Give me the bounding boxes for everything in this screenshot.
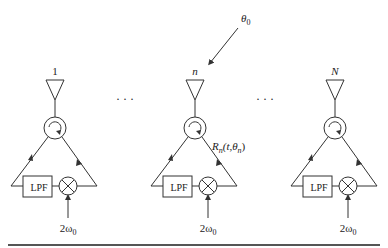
element-index-label: n [192, 65, 198, 77]
array-element-1: 1 LPF 2ω0 [11, 65, 97, 237]
array-element-n: n LPF 2ω0 Rn(t,θn) [151, 65, 246, 237]
array-element-N: N LPF 2ω0 [291, 65, 377, 237]
lo-frequency-label: 2ω0 [200, 222, 217, 237]
lpf-label: LPF [30, 182, 48, 193]
element-index-label: N [330, 65, 339, 77]
lpf-label: LPF [310, 182, 328, 193]
lo-frequency-label: 2ω0 [340, 222, 357, 237]
lo-frequency-label: 2ω0 [60, 222, 77, 237]
received-signal-label: Rn(t,θn) [211, 140, 246, 155]
incident-angle-label: θ0 [241, 12, 250, 27]
array-diagram: 1 LPF 2ω0 · · · n LPF 2ω0 Rn(t,θn) θ0 · … [0, 0, 388, 248]
ellipsis: · · · [116, 92, 134, 106]
ellipsis: · · · [256, 92, 274, 106]
incident-wave-arrow [210, 28, 238, 63]
lpf-label: LPF [170, 182, 188, 193]
element-index-label: 1 [52, 65, 58, 77]
